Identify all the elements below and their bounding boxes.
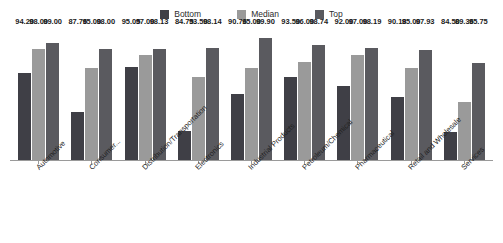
plot-area: 94.2098.0099.0087.7695.0098.0095.0597.00…: [12, 26, 491, 160]
bar-slot: 89.36: [458, 26, 471, 160]
bar-slot: 97.93: [419, 26, 432, 160]
category-cell: Consumer...: [65, 164, 118, 240]
bar: 95.00: [85, 68, 98, 160]
category-cell: Automotive: [12, 164, 65, 240]
bar-slot: 87.76: [71, 26, 84, 160]
bar: 94.20: [18, 73, 31, 160]
bar-group: 94.2098.0099.00: [12, 26, 65, 160]
category-cell: Electronics: [172, 164, 225, 240]
bar-slot: 93.50: [192, 26, 205, 160]
bar: 98.00: [32, 49, 45, 160]
bar-slot: 99.00: [46, 26, 59, 160]
bar-slot: 84.75: [178, 26, 191, 160]
bar-value-label: 98.19: [363, 18, 382, 27]
bar-chart: BottomMedianTop 94.2098.0099.0087.7695.0…: [0, 0, 503, 243]
bar-value-label: 98.13: [150, 18, 169, 27]
bar: 90.18: [391, 97, 404, 160]
bar-value-label: 98.00: [96, 18, 115, 27]
bar-slot: 96.00: [298, 26, 311, 160]
bar-slot: 98.74: [312, 26, 325, 160]
category-cell: Distribution/Transportation: [118, 164, 171, 240]
bar-slot: 95.00: [85, 26, 98, 160]
bar-slot: 98.19: [365, 26, 378, 160]
bar-slot: 90.76: [231, 26, 244, 160]
bar-slot: 94.20: [18, 26, 31, 160]
bar-slot: 84.50: [444, 26, 457, 160]
bar: 95.00: [245, 68, 258, 160]
bar-slot: 92.00: [337, 26, 350, 160]
bar-slot: 98.13: [153, 26, 166, 160]
bar: 90.76: [231, 94, 244, 160]
bar: 87.76: [71, 112, 84, 160]
bar: 97.00: [351, 55, 364, 160]
bar-group: 92.0097.0098.19: [331, 26, 384, 160]
bar: 97.00: [139, 55, 152, 160]
bar-slot: 98.00: [32, 26, 45, 160]
bar: 89.36: [458, 102, 471, 160]
bar-value-label: 99.90: [256, 18, 275, 27]
bar-slot: 95.00: [245, 26, 258, 160]
bar-value-label: 98.74: [309, 18, 328, 27]
bar-slot: 95.00: [405, 26, 418, 160]
bar-group: 84.5089.3695.75: [438, 26, 491, 160]
bar-slot: 98.00: [99, 26, 112, 160]
bar-slot: 95.75: [472, 26, 485, 160]
bar-value-label: 99.00: [43, 18, 62, 27]
category-cell: Retail and Wholesale: [385, 164, 438, 240]
bar-value-label: 98.14: [203, 18, 222, 27]
bar-slot: 93.50: [284, 26, 297, 160]
category-cell: Pharmaceutical: [331, 164, 384, 240]
bar: 95.05: [125, 67, 138, 160]
category-cell: Services: [438, 164, 491, 240]
bar-slot: 95.05: [125, 26, 138, 160]
bar: 95.00: [405, 68, 418, 160]
bar: 96.00: [298, 62, 311, 160]
bar: 93.50: [284, 77, 297, 160]
category-cell: Industrial Products: [225, 164, 278, 240]
bar-slot: 97.00: [351, 26, 364, 160]
x-axis-category-labels: AutomotiveConsumer...Distribution/Transp…: [12, 164, 491, 240]
bar-value-label: 95.75: [469, 18, 488, 27]
bar-group: 87.7695.0098.00: [65, 26, 118, 160]
bar-group: 93.5096.0098.74: [278, 26, 331, 160]
category-cell: Petroleum/Chemical: [278, 164, 331, 240]
bar-slot: 97.00: [139, 26, 152, 160]
bar-value-label: 97.93: [416, 18, 435, 27]
bar-slot: 90.18: [391, 26, 404, 160]
bar-group: 95.0597.0098.13: [118, 26, 171, 160]
